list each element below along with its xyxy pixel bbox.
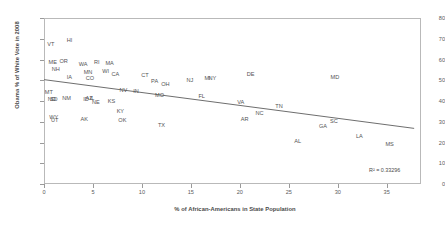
data-point-label: TX — [158, 122, 165, 128]
data-point-label: MS — [385, 141, 393, 147]
data-point-label: MO — [155, 92, 164, 98]
data-point-label: DE — [247, 71, 255, 77]
data-point-label: NH — [52, 66, 60, 72]
x-tick-label: 35 — [375, 189, 399, 195]
y-tick-mark — [40, 101, 44, 102]
x-tick-mark — [289, 184, 290, 188]
y-tick-mark — [40, 18, 44, 19]
x-axis-title: % of African-Americans in State Populati… — [120, 206, 350, 212]
data-point-label: SC — [330, 118, 338, 124]
data-point-label: NV — [119, 87, 127, 93]
y-tick-label: 70 — [411, 36, 445, 42]
scatter-chart: 01020304050607080 05101520253035 Obama %… — [0, 0, 445, 227]
data-point-label: WA — [79, 61, 88, 67]
data-point-label: AK — [80, 116, 87, 122]
y-axis-title: Obama % of White Vote in 2008 — [14, 0, 20, 130]
data-point-label: ME — [49, 59, 57, 65]
data-point-label: VA — [237, 99, 244, 105]
y-tick-mark — [40, 163, 44, 164]
data-point-label: RI — [94, 59, 100, 65]
data-point-label: WI — [102, 68, 109, 74]
x-tick-mark — [93, 184, 94, 188]
x-tick-label: 30 — [326, 189, 350, 195]
data-point-label: AL — [294, 138, 301, 144]
y-tick-mark — [40, 122, 44, 123]
data-point-label: UT — [51, 117, 58, 123]
x-tick-mark — [44, 184, 45, 188]
data-point-label: MD — [330, 74, 339, 80]
x-tick-mark — [142, 184, 143, 188]
y-tick-label: 10 — [411, 160, 445, 166]
data-point-label: OH — [161, 81, 169, 87]
x-tick-mark — [240, 184, 241, 188]
y-tick-label: 30 — [411, 119, 445, 125]
data-point-label: NY — [209, 75, 217, 81]
data-point-label: KY — [117, 108, 124, 114]
data-point-label: IN — [133, 88, 139, 94]
data-point-label: OK — [118, 117, 126, 123]
data-point-label: GA — [319, 123, 327, 129]
data-point-label: NJ — [186, 77, 193, 83]
data-point-label: OR — [59, 58, 67, 64]
x-tick-label: 20 — [228, 189, 252, 195]
y-tick-label: 50 — [411, 77, 445, 83]
x-tick-label: 25 — [277, 189, 301, 195]
data-point-label: HI — [67, 37, 73, 43]
data-point-label: NE — [92, 99, 100, 105]
x-tick-mark — [191, 184, 192, 188]
y-tick-mark — [40, 80, 44, 81]
data-point-label: CO — [86, 75, 94, 81]
y-tick-mark — [40, 60, 44, 61]
x-tick-label: 0 — [32, 189, 56, 195]
y-tick-label: 0 — [411, 181, 445, 187]
plot-area — [44, 18, 421, 184]
x-tick-label: 15 — [179, 189, 203, 195]
r-squared-annotation: R² = 0.33296 — [369, 167, 400, 173]
data-point-label: LA — [356, 133, 363, 139]
y-tick-mark — [40, 39, 44, 40]
data-point-label: CT — [141, 72, 148, 78]
y-tick-label: 20 — [411, 140, 445, 146]
data-point-label: AR — [241, 116, 249, 122]
y-tick-label: 80 — [411, 15, 445, 21]
x-tick-mark — [387, 184, 388, 188]
data-point-label: TN — [275, 103, 282, 109]
data-point-label: MT — [45, 89, 53, 95]
data-point-label: CA — [112, 71, 120, 77]
x-tick-mark — [338, 184, 339, 188]
data-point-label: PA — [151, 78, 158, 84]
data-point-label: NC — [255, 110, 263, 116]
x-tick-label: 10 — [130, 189, 154, 195]
y-tick-label: 40 — [411, 98, 445, 104]
data-point-label: NM — [62, 95, 71, 101]
y-tick-label: 60 — [411, 57, 445, 63]
data-point-label: IA — [67, 74, 72, 80]
data-point-label: MA — [105, 60, 113, 66]
data-point-label: VT — [47, 41, 54, 47]
data-point-label: KS — [108, 98, 115, 104]
y-tick-mark — [40, 143, 44, 144]
data-point-label: FL — [198, 93, 205, 99]
data-point-label: SD — [50, 96, 58, 102]
x-tick-label: 5 — [81, 189, 105, 195]
